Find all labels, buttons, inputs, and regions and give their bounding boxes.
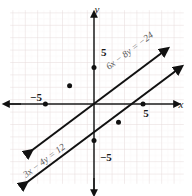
x-tick-label-neg5: −5 <box>30 91 42 103</box>
y-tick-label-5: 5 <box>101 46 107 58</box>
x-axis-label: x <box>178 98 184 110</box>
coordinate-plane-graph: −5 5 5 −5 y x 6x − 8y = −24 3x − 4y = 12 <box>0 0 192 196</box>
y-tick-label-neg5: −5 <box>100 151 112 163</box>
x-tick-label-5: 5 <box>143 107 149 119</box>
y-axis-label: y <box>94 3 100 15</box>
graph-canvas: −5 5 5 −5 y x 6x − 8y = −24 3x − 4y = 12 <box>0 0 192 196</box>
point-marker <box>92 138 97 143</box>
point-marker <box>141 102 146 107</box>
point-marker <box>43 102 48 107</box>
point-marker <box>116 120 121 125</box>
point-marker <box>67 83 72 88</box>
point-marker <box>92 65 97 70</box>
